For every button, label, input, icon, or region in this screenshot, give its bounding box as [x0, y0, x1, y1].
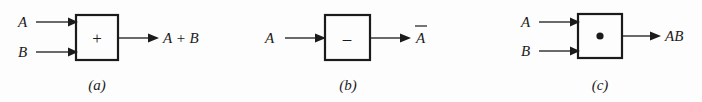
- diagram-c: A B AB (c): [520, 14, 683, 94]
- input-wire-c1: [539, 18, 580, 27]
- input-label-a2: B: [18, 44, 27, 60]
- input-label-c2: B: [521, 43, 530, 59]
- operator-symbol-a: +: [92, 29, 102, 48]
- operator-symbol-b: –: [342, 29, 352, 48]
- input-wire-a1: [36, 18, 78, 27]
- diagram-a: + A B A + B (a): [17, 14, 199, 94]
- output-label-a: A + B: [162, 30, 199, 46]
- input-wire-a2: [36, 48, 78, 57]
- operator-symbol-c: [596, 32, 603, 39]
- output-wire-c: [622, 32, 661, 41]
- input-wire-c2: [539, 47, 580, 56]
- input-wire-b1: [285, 34, 326, 43]
- output-label-b: A: [415, 30, 426, 46]
- caption-a: (a): [88, 77, 106, 94]
- input-label-a1: A: [17, 14, 28, 30]
- figure-canvas: + A B A + B (a) –: [0, 0, 702, 102]
- output-wire-b: [370, 34, 411, 43]
- output-label-c: AB: [664, 28, 683, 44]
- diagram-b: – A A (b): [264, 15, 427, 94]
- input-label-c1: A: [520, 14, 531, 30]
- input-label-b1: A: [264, 30, 275, 46]
- caption-c: (c): [592, 77, 609, 94]
- caption-b: (b): [339, 77, 357, 94]
- figure-logic-gates: + A B A + B (a) –: [0, 0, 702, 102]
- output-wire-a: [118, 34, 159, 43]
